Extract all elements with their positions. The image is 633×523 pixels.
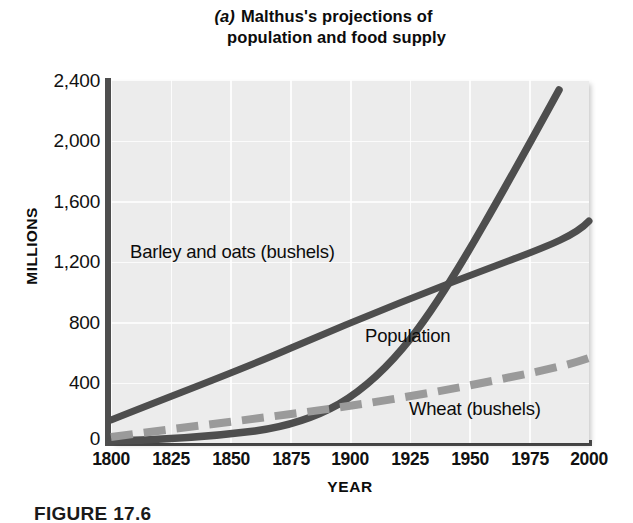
y-tick-400: 400 <box>0 372 100 394</box>
y-tick-1200: 1,200 <box>0 251 100 273</box>
series-label-wheat: Wheat (bushels) <box>409 398 541 420</box>
malthus-projection-chart: (a)Malthus's projections of population a… <box>0 0 633 523</box>
y-tick-2000: 2,000 <box>0 130 100 152</box>
series-label-barley-oats: Barley and oats (bushels) <box>130 241 335 263</box>
y-tick-1600: 1,600 <box>0 191 100 213</box>
x-tick-2000: 2000 <box>554 449 624 470</box>
y-tick-0: 0 <box>0 428 100 450</box>
y-axis-tick-labels: 2,400 2,000 1,600 1,200 800 400 0 <box>0 0 100 523</box>
plot-region: Barley and oats (bushels) Population Whe… <box>111 80 589 443</box>
y-axis-title: MILLIONS <box>23 186 41 306</box>
y-tick-800: 800 <box>0 312 100 334</box>
y-tick-2400: 2,400 <box>0 70 100 92</box>
series-label-population: Population <box>365 325 450 347</box>
chart-title-line-1: Malthus's projections of <box>241 7 433 25</box>
x-axis-title: YEAR <box>111 478 589 496</box>
x-axis-tick-labels: 1800 1825 1850 1875 1900 1925 1950 1975 … <box>111 449 589 475</box>
panel-letter: (a) <box>215 7 235 25</box>
figure-caption: FIGURE 17.6 <box>34 503 151 523</box>
